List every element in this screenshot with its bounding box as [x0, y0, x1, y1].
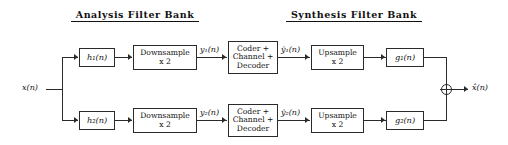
wire-join-lower: [446, 93, 447, 120]
block-h1: h₁(n): [79, 48, 115, 67]
arrow-into-g1: [381, 54, 385, 60]
block-g1: g₁(n): [386, 48, 424, 67]
block-h2: h₂(n): [79, 111, 115, 130]
y2-hat-signal-label: ŷ₂(n): [281, 108, 300, 117]
arrow-into-coder2: [222, 117, 226, 123]
arrow-into-upsample2: [305, 117, 309, 123]
block-coder-channel-decoder-1: Coder + Channel + Decoder: [228, 41, 278, 74]
analysis-filter-bank-title: Analysis Filter Bank: [71, 9, 199, 22]
block-upsample-2: Upsample x 2: [311, 108, 364, 133]
arrow-into-coder1: [222, 54, 226, 60]
wire-branch-vertical: [62, 57, 63, 121]
filter-bank-diagram: Analysis Filter Bank Synthesis Filter Ba…: [0, 0, 508, 145]
arrow-into-downsample2: [128, 117, 132, 123]
summing-junction: [441, 84, 452, 95]
y1-hat-signal-label: ŷ₁(n): [281, 45, 300, 54]
output-signal-label: x̂(n): [472, 83, 488, 92]
arrow-into-h1: [74, 54, 78, 60]
input-signal-label: x(n): [22, 83, 38, 92]
arrow-into-g2: [381, 117, 385, 123]
synthesis-filter-bank-title: Synthesis Filter Bank: [286, 9, 422, 22]
arrow-output: [464, 86, 468, 92]
arrow-into-upsample1: [305, 54, 309, 60]
wire-g1-to-join: [424, 57, 447, 58]
block-downsample-2: Downsample x 2: [133, 108, 197, 133]
wire-input-to-branch: [46, 89, 63, 90]
block-upsample-1: Upsample x 2: [311, 45, 364, 70]
block-coder-channel-decoder-2: Coder + Channel + Decoder: [228, 104, 278, 137]
block-downsample-1: Downsample x 2: [133, 45, 197, 70]
wire-join-upper: [446, 57, 447, 85]
block-g2: g₂(n): [386, 111, 424, 130]
wire-g2-to-join: [424, 120, 447, 121]
y1-signal-label: y₁(n): [200, 45, 219, 54]
y2-signal-label: y₂(n): [200, 108, 219, 117]
arrow-into-h2: [74, 117, 78, 123]
arrow-into-downsample1: [128, 54, 132, 60]
